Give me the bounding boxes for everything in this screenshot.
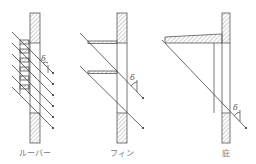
eave-panel: δ 庇	[162, 13, 247, 158]
fin-angle-mark: δ	[130, 73, 137, 92]
eave-wall	[214, 13, 230, 143]
louver-label: ルーバー	[19, 149, 51, 158]
louver-angle-mark: δ	[41, 54, 48, 73]
eave-angle-mark: δ	[233, 103, 240, 122]
fin-label: フィン	[110, 149, 134, 158]
delta-symbol: δ	[130, 73, 135, 82]
fin-wall	[117, 13, 127, 143]
louver-panel: δ ルーバー	[12, 13, 54, 158]
eave-label: 庇	[222, 148, 230, 158]
shading-devices-diagram: δ ルーバー δ フィン	[0, 0, 256, 164]
delta-symbol: δ	[233, 103, 238, 112]
delta-symbol: δ	[41, 54, 46, 63]
fin-panel: δ フィン	[80, 13, 144, 158]
eave-slab	[165, 34, 222, 43]
louver-wall	[30, 13, 40, 143]
